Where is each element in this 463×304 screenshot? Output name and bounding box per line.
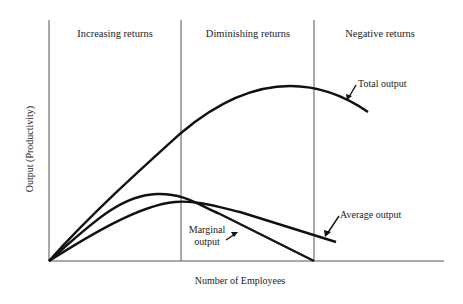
arrowhead-icon [324, 230, 331, 237]
total-output-arrow [349, 85, 356, 97]
region-label-negative: Negative returns [345, 28, 415, 39]
production-function-chart: Increasing returns Diminishing returns N… [0, 0, 463, 304]
marginal-output-label-line1: Marginal [189, 224, 226, 235]
arrowhead-icon [346, 94, 352, 100]
marginal-output-label-line2: output [194, 236, 220, 247]
x-axis-label: Number of Employees [195, 275, 286, 286]
total-output-label: Total output [358, 78, 407, 89]
region-label-diminishing: Diminishing returns [206, 28, 290, 39]
average-output-label: Average output [340, 209, 401, 220]
region-label-increasing: Increasing returns [77, 28, 153, 39]
average-output-arrow [327, 216, 339, 234]
y-axis-label: Output (Productivity) [24, 106, 36, 192]
